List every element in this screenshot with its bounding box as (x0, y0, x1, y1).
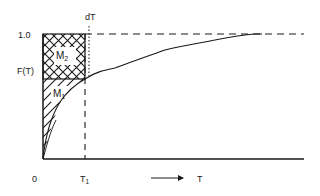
region-m1 (43, 79, 85, 159)
t1-label: T1 (80, 174, 90, 185)
cdf-diagram: 1.0 F(T) M2 M1 dT 0 T1 T (0, 0, 320, 196)
x-axis-label: T (197, 174, 203, 184)
y-axis-label: F(T) (17, 66, 34, 76)
y-tick-1: 1.0 (18, 30, 31, 40)
dt-label: dT (85, 12, 96, 22)
origin-label: 0 (32, 174, 37, 184)
